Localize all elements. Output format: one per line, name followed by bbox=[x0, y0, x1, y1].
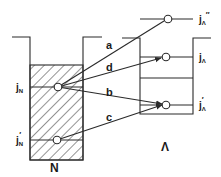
state-jL-circle bbox=[162, 53, 170, 61]
level-jL-dprime-label: jΛ″ bbox=[198, 10, 210, 26]
level-jN-label: jN bbox=[15, 82, 23, 94]
level-jN-prime-label: jN′ bbox=[15, 130, 23, 147]
n-well-hatched-region bbox=[30, 65, 83, 160]
state-jN-prime-circle bbox=[53, 136, 61, 144]
level-jL-prime-label: jΛ′ bbox=[198, 95, 206, 112]
transition-diagram: a d b c jN jN′ jΛ″ jΛ jΛ′ N Λ bbox=[0, 0, 221, 177]
state-jL-prime-circle bbox=[162, 101, 170, 109]
transition-a-arrow bbox=[58, 21, 164, 87]
well-n-label: N bbox=[50, 161, 59, 175]
transition-c-label: c bbox=[106, 111, 112, 123]
well-lambda-label: Λ bbox=[161, 140, 169, 154]
transition-b-label: b bbox=[106, 86, 113, 98]
state-jN-circle bbox=[54, 83, 62, 91]
level-jL-label: jΛ bbox=[198, 52, 206, 64]
transition-a-label: a bbox=[106, 39, 113, 51]
transition-d-label: d bbox=[106, 61, 113, 73]
state-jL-dprime-circle bbox=[164, 15, 172, 23]
